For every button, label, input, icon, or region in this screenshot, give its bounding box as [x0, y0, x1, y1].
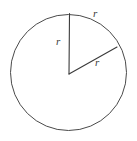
diagonal-radius-label: r [95, 57, 99, 68]
geometry-canvas [0, 0, 137, 141]
arc-radius-label: r [93, 8, 97, 19]
diagonal-radius-line [69, 47, 117, 74]
vertical-radius-label: r [56, 36, 60, 47]
circle-radii-figure: r r r [0, 0, 137, 141]
vertical-radius-line [69, 14, 70, 75]
